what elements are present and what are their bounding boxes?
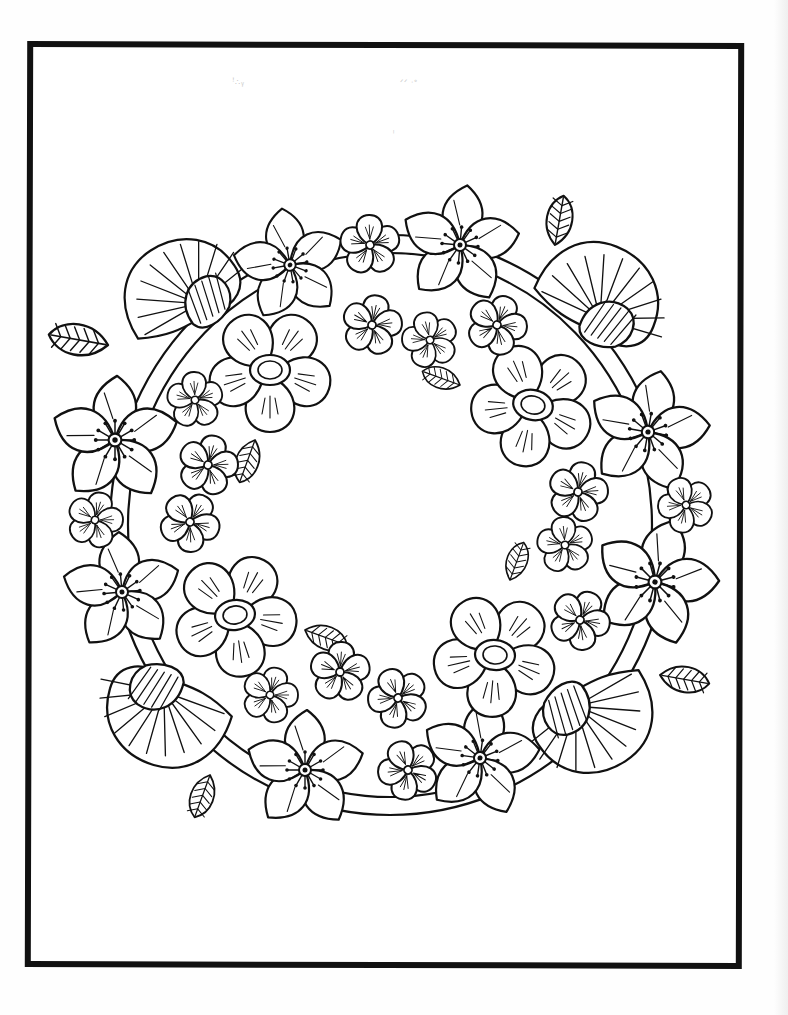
star-flower-icon [573,503,737,662]
star-flower-icon [47,376,182,505]
fan-flower-icon [523,222,688,369]
small-flower-icon [329,204,409,286]
small-flower-icon [536,578,622,663]
small-flower-icon [168,427,247,504]
small-flower-icon [334,289,410,363]
scan-edge-shadow [774,0,788,1015]
round-flower-icon [455,328,611,479]
leaf-icon [658,662,712,696]
coloring-page: ꜝ∴ᵧ ᐟᐟ ᐧᐤ ᵎ [0,0,788,1015]
star-flower-icon [54,527,190,658]
small-flower-icon [305,640,374,706]
leaf-icon [184,771,221,821]
floral-wreath-illustration [0,0,788,1015]
round-flower-icon [160,542,309,686]
leaf-icon [46,320,110,361]
star-flower-icon [392,180,528,311]
leaf-icon [500,539,533,584]
star-flower-icon [221,199,359,332]
leaf-icon [542,194,576,248]
round-flower-icon [204,306,337,432]
fan-flower-icon [80,646,241,785]
